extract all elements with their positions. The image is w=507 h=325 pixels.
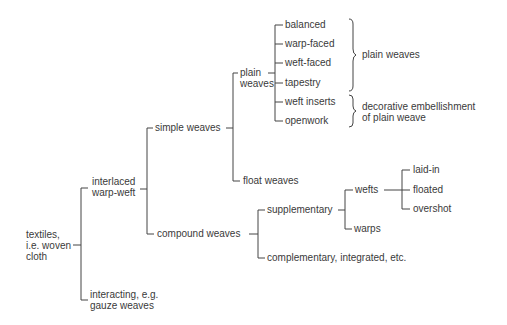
node-warps: warps bbox=[354, 223, 381, 234]
node-wefts: wefts bbox=[355, 184, 378, 195]
leaf-floated: floated bbox=[413, 184, 443, 195]
leaf-weft-inserts: weft inserts bbox=[285, 96, 336, 107]
node-complementary: complementary, integrated, etc. bbox=[267, 252, 406, 263]
leaf-balanced: balanced bbox=[285, 19, 326, 30]
node-plain-weaves: plain weaves bbox=[240, 67, 274, 89]
leaf-warp-faced: warp-faced bbox=[285, 38, 334, 49]
bracket-label-plain-weaves: plain weaves bbox=[362, 49, 420, 60]
node-textiles: textiles, i.e. woven cloth bbox=[26, 229, 71, 262]
node-textiles-line1: textiles, bbox=[26, 229, 71, 240]
node-interlaced-line2: warp-weft bbox=[92, 187, 135, 198]
node-plain-line2: weaves bbox=[240, 78, 274, 89]
node-float-weaves: float weaves bbox=[243, 175, 299, 186]
bracket-label-decorative: decorative embellishment of plain weave bbox=[362, 101, 475, 123]
leaf-weft-faced: weft-faced bbox=[285, 57, 331, 68]
node-compound-weaves: compound weaves bbox=[157, 228, 240, 239]
leaf-tapestry: tapestry bbox=[285, 77, 321, 88]
node-interacting-line2: gauze weaves bbox=[90, 300, 158, 311]
node-plain-line1: plain bbox=[240, 67, 274, 78]
node-interacting: interacting, e.g. gauze weaves bbox=[90, 289, 158, 311]
node-interlaced-line1: interlaced bbox=[92, 176, 135, 187]
node-interlaced-warp-weft: interlaced warp-weft bbox=[92, 176, 135, 198]
bracket-decorative-line1: decorative embellishment bbox=[362, 101, 475, 112]
node-interacting-line1: interacting, e.g. bbox=[90, 289, 158, 300]
node-simple-weaves: simple weaves bbox=[155, 122, 221, 133]
node-textiles-line2: i.e. woven bbox=[26, 240, 71, 251]
leaf-overshot: overshot bbox=[413, 203, 451, 214]
node-supplementary: supplementary bbox=[267, 204, 333, 215]
tree-connector-lines bbox=[0, 0, 507, 325]
leaf-laid-in: laid-in bbox=[413, 164, 440, 175]
leaf-openwork: openwork bbox=[285, 115, 328, 126]
node-textiles-line3: cloth bbox=[26, 251, 71, 262]
bracket-decorative-line2: of plain weave bbox=[362, 112, 475, 123]
